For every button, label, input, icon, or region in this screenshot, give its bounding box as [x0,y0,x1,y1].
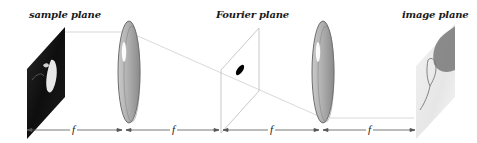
sample-plane-label: sample plane [29,9,101,20]
lens-2 [312,21,334,123]
optical-layout [0,0,477,143]
fourier-filter-spot [234,63,245,76]
focal-length-label-3: f [268,124,275,135]
focal-length-label-1: f [70,124,77,135]
fourier-plane-label: Fourier plane [216,9,289,20]
fourier-plane [221,28,259,133]
4f-system-diagram: sample plane Fourier plane image plane f… [0,0,477,143]
lens-1 [118,21,140,123]
focal-length-label-2: f [170,124,177,135]
light-rays [64,32,414,118]
focal-length-label-4: f [366,124,373,135]
sample-plane [27,27,65,139]
image-plane-label: image plane [402,9,468,20]
image-plane [416,24,455,139]
